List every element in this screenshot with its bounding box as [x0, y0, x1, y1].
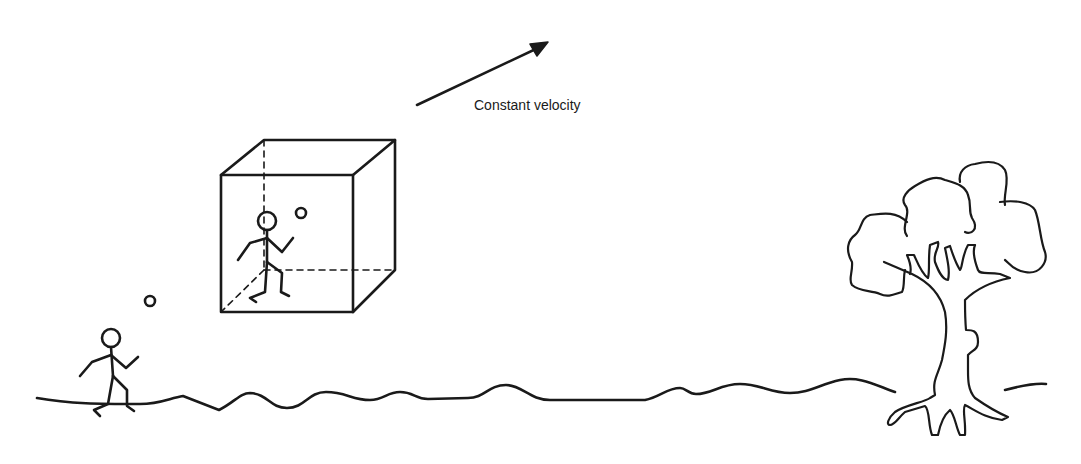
person-in-box	[238, 212, 293, 302]
relativity-diagram	[0, 0, 1081, 464]
velocity-label: Constant velocity	[474, 97, 581, 113]
ground-line	[37, 379, 895, 410]
ball-on-ground	[145, 296, 155, 306]
tree	[848, 162, 1046, 435]
ball-in-box	[296, 208, 306, 218]
moving-box	[221, 140, 395, 312]
velocity-arrow	[417, 42, 548, 105]
ground-line-right	[1005, 384, 1046, 390]
